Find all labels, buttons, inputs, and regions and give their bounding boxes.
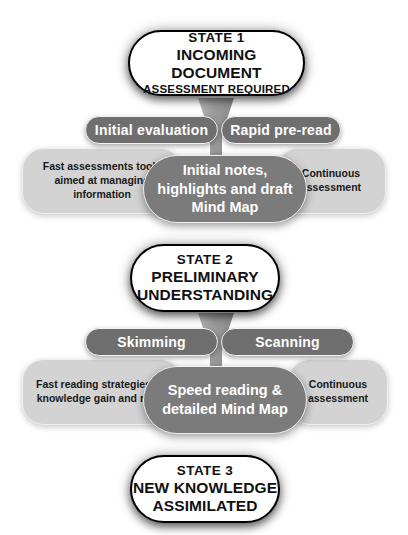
- stage-1-left-pill[interactable]: Initial evaluation: [85, 116, 218, 144]
- state-1-title: INCOMING DOCUMENT: [130, 46, 303, 83]
- state-2-subtitle: UNDERSTANDING: [137, 286, 273, 304]
- state-2-title: PRELIMINARY: [151, 268, 258, 286]
- state-3-label: STATE 3: [177, 463, 233, 479]
- stage-2-right-note-text: Continuous assessment: [295, 378, 381, 406]
- state-1-label: STATE 1: [188, 30, 244, 46]
- stage-2-right-pill-label: Scanning: [255, 334, 320, 350]
- stage-2-center-label: Speed reading & detailed Mind Map: [152, 381, 298, 419]
- stage-1-center-label: Initial notes, highlights and draft Mind…: [152, 161, 298, 218]
- state-box-2[interactable]: STATE 2 PRELIMINARY UNDERSTANDING: [130, 244, 280, 312]
- stage-1-left-pill-label: Initial evaluation: [95, 122, 208, 138]
- stage-1-center-pill[interactable]: Initial notes, highlights and draft Mind…: [143, 155, 307, 223]
- process-diagram: STATE 1 INCOMING DOCUMENT ASSESSMENT REQ…: [0, 0, 408, 535]
- state-2-label: STATE 2: [177, 252, 233, 268]
- stage-2-center-pill[interactable]: Speed reading & detailed Mind Map: [143, 366, 307, 434]
- stage-1-right-pill[interactable]: Rapid pre-read: [221, 116, 341, 144]
- state-box-1[interactable]: STATE 1 INCOMING DOCUMENT ASSESSMENT REQ…: [128, 30, 305, 96]
- state-3-title: NEW KNOWLEDGE: [133, 479, 277, 497]
- state-3-subtitle: ASSIMILATED: [152, 497, 257, 515]
- stage-1-right-pill-label: Rapid pre-read: [230, 122, 332, 138]
- state-box-3[interactable]: STATE 3 NEW KNOWLEDGE ASSIMILATED: [130, 455, 280, 523]
- stage-2-left-pill-label: Skimming: [117, 334, 186, 350]
- state-1-subtitle: ASSESSMENT REQUIRED: [143, 82, 290, 96]
- stage-2-right-pill[interactable]: Scanning: [221, 328, 354, 356]
- stage-2-left-pill[interactable]: Skimming: [85, 328, 218, 356]
